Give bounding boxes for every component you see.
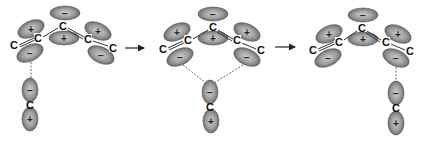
plus-sign: + xyxy=(61,33,67,44)
carbon-atom-label: C xyxy=(257,44,265,56)
carbon-atom-label: C xyxy=(159,43,167,55)
plus-sign: + xyxy=(360,34,366,45)
carbon-atom-label: C xyxy=(309,44,317,56)
minus-sign: − xyxy=(177,52,183,63)
carbon-atom-label: C xyxy=(209,21,217,33)
carbon-atom-label: C xyxy=(10,39,18,51)
minus-sign: − xyxy=(27,48,33,59)
panels: −++−+−−+CCCCCC−++−+−−+CCCCCC−++−+−−+CCCC… xyxy=(10,6,414,135)
bottom-carbon-label: C xyxy=(206,101,214,113)
bottom-carbon-label: C xyxy=(392,102,400,114)
plus-sign: + xyxy=(210,33,216,44)
plus-sign: + xyxy=(395,29,401,40)
minus-sign: − xyxy=(207,87,213,98)
plus-sign: + xyxy=(174,27,180,38)
p-orbital-lobe: − xyxy=(50,6,80,20)
minus-sign: − xyxy=(27,85,33,96)
p-orbital-lobe: − xyxy=(14,40,46,66)
minus-sign: − xyxy=(98,50,104,61)
panel-both-interaction: −++−+−−+CCCCCC xyxy=(159,7,265,133)
minus-sign: − xyxy=(62,8,68,19)
p-orbital-lobe: + xyxy=(49,31,79,45)
panel-left-interaction: −++−+−−+CCCCCC xyxy=(10,6,117,131)
minus-sign: − xyxy=(244,52,250,63)
carbon-atom-label: C xyxy=(406,45,414,57)
bond-line xyxy=(93,41,108,46)
minus-sign: − xyxy=(325,53,331,64)
plus-sign: + xyxy=(393,118,399,129)
overlap-dashed-line xyxy=(183,65,206,83)
orbital-diagram: −++−+−−+CCCCCC−++−+−−+CCCCCC−++−+−−+CCCC… xyxy=(0,0,421,143)
carbon-atom-label: C xyxy=(335,36,343,48)
carbon-atom-label: C xyxy=(184,34,192,46)
overlap-dashed-line xyxy=(214,65,243,83)
minus-sign: − xyxy=(393,88,399,99)
carbon-atom-label: C xyxy=(233,34,241,46)
p-orbital-lobe: + xyxy=(388,111,404,135)
plus-sign: + xyxy=(27,114,33,125)
plus-sign: + xyxy=(95,26,101,37)
carbon-atom-label: C xyxy=(84,33,92,45)
p-orbital-lobe: + xyxy=(203,109,219,133)
bottom-carbon-label: C xyxy=(26,99,34,111)
carbon-atom-label: C xyxy=(59,20,67,32)
plus-sign: + xyxy=(208,116,214,127)
carbon-atom-label: C xyxy=(382,36,390,48)
p-orbital-lobe: + xyxy=(22,107,38,131)
carbon-atom-label: C xyxy=(358,22,366,34)
p-orbital-lobe: − xyxy=(198,7,228,21)
p-orbital-lobe: − xyxy=(348,8,378,22)
plus-sign: + xyxy=(244,27,250,38)
minus-sign: − xyxy=(210,9,216,20)
minus-sign: − xyxy=(360,10,366,21)
plus-sign: + xyxy=(326,29,332,40)
reaction-arrows xyxy=(125,47,295,48)
p-orbital-lobe: + xyxy=(15,16,47,42)
minus-sign: − xyxy=(393,53,399,64)
panel-right-interaction: −++−+−−+CCCCCC xyxy=(309,8,414,135)
carbon-atom-label: C xyxy=(109,42,117,54)
carbon-atom-label: C xyxy=(34,32,42,44)
